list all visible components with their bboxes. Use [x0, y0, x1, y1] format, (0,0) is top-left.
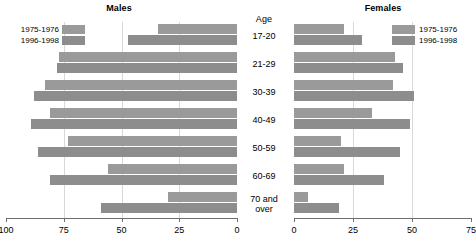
males-legend: 1975-19761996-1998	[14, 24, 86, 46]
legend-label-1996-1998: 1996-1998	[21, 36, 59, 45]
bar-females-30-39-1996-1998	[294, 91, 414, 101]
bar-row-males-7	[6, 190, 237, 218]
tick-females-0	[294, 218, 295, 222]
bar-row-males-4	[6, 106, 237, 134]
bar-males-60-69-1996-1998	[50, 175, 237, 185]
tick-females-25	[353, 218, 354, 222]
age-label-column: 17-2021-2930-3940-4950-5960-6970 andover	[238, 22, 290, 218]
legend-swatch-1975-1976	[392, 25, 415, 34]
bar-females-70-and-over-1996-1998	[294, 203, 339, 213]
tick-label-males-75: 75	[59, 225, 69, 235]
bar-males-50-59-1996-1998	[38, 147, 237, 157]
legend-swatch-1996-1998	[392, 36, 415, 45]
bar-males-70-and-over-1996-1998	[101, 203, 237, 213]
males-plot-area	[6, 22, 237, 218]
bar-males-17-20-1975-1976	[158, 24, 237, 34]
legend-row-1975-1976: 1975-1976	[392, 24, 472, 35]
bar-males-30-39-1996-1998	[34, 91, 237, 101]
legend-label-1975-1976: 1975-1976	[419, 25, 457, 34]
bar-males-70-and-over-1975-1976	[168, 192, 237, 202]
bar-row-females-3	[294, 78, 471, 106]
age-label-30-39: 30-39	[238, 87, 290, 97]
tick-label-females-25: 25	[348, 225, 358, 235]
tick-males-50	[122, 218, 123, 222]
tick-males-25	[179, 218, 180, 222]
age-label-17-20: 17-20	[238, 31, 290, 41]
bar-row-females-5	[294, 134, 471, 162]
females-panel-title: Females	[290, 3, 476, 13]
bar-females-17-20-1996-1998	[294, 35, 362, 45]
age-label-60-69: 60-69	[238, 171, 290, 181]
tick-label-females-75: 75	[466, 225, 476, 235]
legend-swatch-1975-1976	[62, 25, 85, 34]
bar-females-60-69-1996-1998	[294, 175, 384, 185]
females-legend: 1975-19761996-1998	[392, 24, 472, 46]
bar-females-30-39-1975-1976	[294, 80, 393, 90]
tick-label-females-0: 0	[291, 225, 296, 235]
bar-males-40-49-1996-1998	[31, 119, 237, 129]
tick-females-75	[471, 218, 472, 222]
bar-males-60-69-1975-1976	[108, 164, 237, 174]
age-label-40-49: 40-49	[238, 115, 290, 125]
bar-males-30-39-1975-1976	[45, 80, 237, 90]
males-panel-title: Males	[0, 3, 238, 13]
bar-males-21-29-1996-1998	[57, 63, 237, 73]
bar-row-females-2	[294, 50, 471, 78]
bar-females-40-49-1996-1998	[294, 119, 410, 129]
tick-label-females-50: 50	[407, 225, 417, 235]
population-pyramid-chart: Males Age Females 1007550250 0255075 17-…	[0, 0, 476, 247]
tick-label-males-100: 100	[0, 225, 14, 235]
bar-males-17-20-1996-1998	[128, 35, 237, 45]
bar-row-males-3	[6, 78, 237, 106]
bar-females-70-and-over-1975-1976	[294, 192, 308, 202]
bar-males-40-49-1975-1976	[50, 108, 237, 118]
bar-females-21-29-1996-1998	[294, 63, 403, 73]
bar-females-60-69-1975-1976	[294, 164, 344, 174]
legend-row-1996-1998: 1996-1998	[392, 35, 472, 46]
tick-males-100	[6, 218, 7, 222]
legend-row-1996-1998: 1996-1998	[14, 35, 86, 46]
legend-label-1996-1998: 1996-1998	[419, 36, 457, 45]
bar-males-50-59-1975-1976	[68, 136, 237, 146]
bar-row-males-2	[6, 50, 237, 78]
age-label-50-59: 50-59	[238, 143, 290, 153]
bar-females-40-49-1975-1976	[294, 108, 372, 118]
tick-males-75	[64, 218, 65, 222]
bar-row-females-6	[294, 162, 471, 190]
bar-row-males-6	[6, 162, 237, 190]
bar-females-17-20-1975-1976	[294, 24, 344, 34]
bar-females-50-59-1975-1976	[294, 136, 341, 146]
legend-label-1975-1976: 1975-1976	[21, 25, 59, 34]
bar-row-females-4	[294, 106, 471, 134]
females-plot-area	[294, 22, 471, 218]
tick-label-males-0: 0	[234, 225, 239, 235]
bar-females-21-29-1975-1976	[294, 52, 395, 62]
bar-row-males-5	[6, 134, 237, 162]
legend-swatch-1996-1998	[62, 36, 85, 45]
tick-males-0	[237, 218, 238, 222]
tick-label-males-25: 25	[174, 225, 184, 235]
tick-label-males-50: 50	[116, 225, 126, 235]
tick-females-50	[412, 218, 413, 222]
females-x-axis	[294, 218, 472, 219]
bar-females-50-59-1996-1998	[294, 147, 400, 157]
legend-row-1975-1976: 1975-1976	[14, 24, 86, 35]
bar-row-females-7	[294, 190, 471, 218]
bar-males-21-29-1975-1976	[59, 52, 237, 62]
age-label-21-29: 21-29	[238, 59, 290, 69]
age-label-70-and-over: 70 andover	[238, 194, 290, 214]
